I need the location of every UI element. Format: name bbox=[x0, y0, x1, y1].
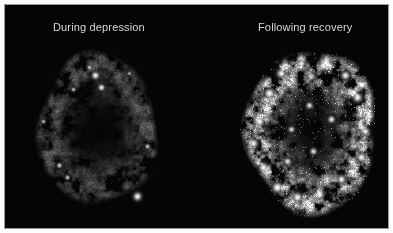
scan-image-panel: During depression Following recovery bbox=[4, 4, 389, 229]
scan-label-during-depression: During depression bbox=[53, 21, 145, 34]
figure-frame: During depression Following recovery bbox=[0, 0, 393, 233]
scan-label-following-recovery: Following recovery bbox=[258, 21, 352, 34]
brain-scan-image bbox=[5, 5, 388, 228]
